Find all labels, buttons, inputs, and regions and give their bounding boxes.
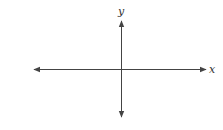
- coordinate-plane: x y: [0, 0, 223, 130]
- y-axis-label: y: [117, 5, 125, 18]
- x-axis-label: x: [209, 63, 216, 76]
